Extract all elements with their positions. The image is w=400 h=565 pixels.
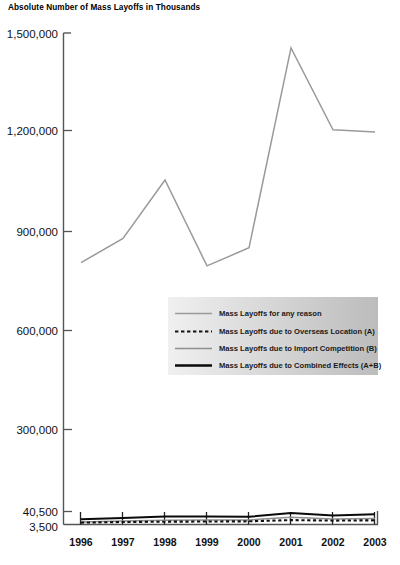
x-tick-label: 2002 <box>321 536 345 548</box>
x-tick-label: 2003 <box>363 536 387 548</box>
y-tick-label: 900,000 <box>16 226 58 238</box>
x-tick-label: 2000 <box>237 536 261 548</box>
x-tick-label: 2001 <box>279 536 303 548</box>
x-tick-label: 1997 <box>111 536 135 548</box>
line-chart-plot: 1,500,000 1,200,000 900,000 600,000 300,… <box>0 0 400 565</box>
x-tick-label: 1999 <box>195 536 219 548</box>
chart-figure: Absolute Number of Mass Layoffs in Thous… <box>0 0 400 565</box>
legend-label-combined: Mass Layoffs due to Combined Effects (A+… <box>219 361 382 370</box>
y-axis-labels: 1,500,000 1,200,000 900,000 600,000 300,… <box>7 28 58 533</box>
x-tick-label: 1998 <box>153 536 177 548</box>
y-tick-label: 600,000 <box>16 325 58 337</box>
y-tick-marks <box>64 131 73 512</box>
legend-label-any-reason: Mass Layoffs for any reason <box>219 309 322 318</box>
y-tick-label: 300,000 <box>16 424 58 436</box>
series-line-any-reason <box>81 48 375 266</box>
y-tick-label: 40,500 <box>23 506 58 518</box>
x-tick-label: 1996 <box>69 536 93 548</box>
y-tick-label: 1,500,000 <box>7 28 58 40</box>
y-tick-label: 3,500 <box>29 521 58 533</box>
legend-label-import: Mass Layoffs due to Import Competition (… <box>219 344 377 353</box>
legend-label-overseas: Mass Layoffs due to Overseas Location (A… <box>219 327 375 336</box>
chart-legend: Mass Layoffs for any reason Mass Layoffs… <box>168 297 382 375</box>
x-axis-labels: 1996 1997 1998 1999 2000 2001 2002 2003 <box>69 536 387 548</box>
y-tick-label: 1,200,000 <box>7 125 58 137</box>
